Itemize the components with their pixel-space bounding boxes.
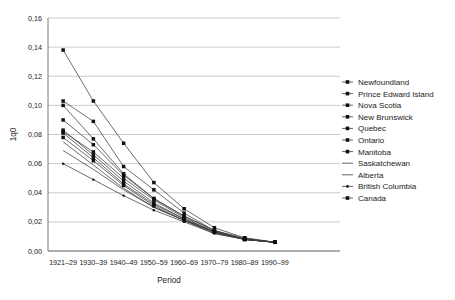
legend-label: British Columbia	[358, 182, 417, 191]
data-point-marker	[61, 136, 65, 140]
legend-marker	[346, 115, 350, 119]
data-point-marker	[92, 143, 96, 147]
x-tick-label: 1970–79	[200, 258, 228, 267]
data-point-marker	[122, 184, 126, 188]
data-point-marker	[92, 159, 96, 163]
legend-marker	[346, 92, 350, 96]
legend-label: Quebec	[358, 124, 386, 133]
legend-marker	[346, 103, 350, 107]
data-point-marker	[152, 201, 156, 205]
y-axis-title: 1q0	[9, 127, 18, 141]
y-tick-label: 0,08	[28, 130, 42, 139]
data-point-marker	[92, 178, 94, 180]
data-point-marker	[152, 181, 156, 185]
y-tick-label: 0,12	[28, 72, 42, 81]
data-point-marker	[122, 141, 126, 145]
x-tick-label: 1980–89	[231, 258, 259, 267]
data-point-marker	[62, 162, 64, 164]
data-point-marker	[182, 217, 186, 221]
data-point-marker	[152, 188, 156, 192]
data-point-marker	[61, 128, 65, 132]
data-point-marker	[92, 99, 96, 103]
y-tick-label: 0,02	[28, 217, 42, 226]
data-point-marker	[122, 165, 126, 169]
y-tick-label: 0,00	[28, 247, 42, 256]
line-chart: 0,000,020,040,060,080,100,120,140,16 192…	[0, 0, 455, 300]
y-tick-label: 0,04	[28, 188, 42, 197]
legend-label: Manitoba	[358, 148, 391, 157]
x-tick-label: 1960–69	[170, 258, 198, 267]
data-point-marker	[61, 104, 65, 108]
data-point-marker	[92, 120, 96, 124]
data-point-marker	[61, 99, 65, 103]
legend-marker	[346, 127, 350, 131]
legend-marker	[346, 185, 349, 188]
data-point-marker	[243, 238, 247, 242]
data-point-marker	[153, 209, 155, 211]
legend-marker	[346, 80, 350, 84]
x-axis-title: Period	[157, 276, 181, 285]
legend-marker	[346, 150, 350, 154]
data-point-marker	[92, 137, 96, 141]
y-tick-label: 0,16	[28, 14, 42, 23]
legend-label: Alberta	[358, 171, 384, 180]
data-point-marker	[182, 207, 186, 211]
legend-marker	[346, 138, 350, 142]
data-point-marker	[92, 153, 96, 157]
legend-label: Ontario	[358, 136, 385, 145]
x-tick-label: 1950–59	[140, 258, 168, 267]
data-point-marker	[61, 118, 65, 122]
x-tick-label: 1930–39	[79, 258, 107, 267]
data-point-marker	[183, 221, 185, 223]
legend-marker	[346, 196, 350, 200]
data-point-marker	[122, 194, 124, 196]
x-tick-label: 1921–29	[49, 258, 77, 267]
y-tick-label: 0,10	[28, 101, 42, 110]
y-axis-tick-labels: 0,000,020,040,060,080,100,120,140,16	[28, 14, 42, 256]
legend-label: Prince Edward Island	[358, 90, 434, 99]
chart-figure: 0,000,020,040,060,080,100,120,140,16 192…	[0, 0, 455, 300]
data-point-marker	[213, 230, 217, 234]
legend-label: New Brunswick	[358, 113, 414, 122]
y-tick-label: 0,14	[28, 43, 42, 52]
x-tick-label: 1940–49	[110, 258, 138, 267]
legend-label: Newfoundland	[358, 78, 409, 87]
y-tick-label: 0,06	[28, 159, 42, 168]
x-tick-label: 1990–99	[261, 258, 289, 267]
data-point-marker	[122, 179, 126, 183]
legend-label: Saskatchewan	[358, 159, 410, 168]
data-point-marker	[273, 241, 277, 245]
legend-label: Nova Scotia	[358, 101, 402, 110]
legend-label: Canada	[358, 194, 387, 203]
data-point-marker	[61, 48, 65, 52]
